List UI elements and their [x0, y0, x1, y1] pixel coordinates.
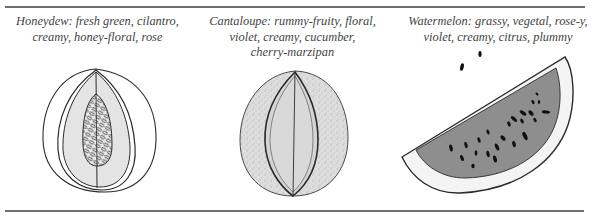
bottom-rule	[5, 210, 584, 212]
cantaloupe-sliced-icon	[240, 71, 348, 196]
watermelon-wedge-icon	[402, 51, 573, 193]
seed-icon	[459, 63, 464, 71]
seed-icon	[478, 51, 481, 57]
honeydew-halved-icon	[43, 69, 156, 192]
